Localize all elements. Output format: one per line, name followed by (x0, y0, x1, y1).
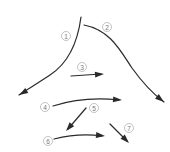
arrow-5: 5 (64, 104, 99, 133)
arrow-number-label: 3 (80, 64, 84, 71)
arrow-7: 7 (110, 124, 134, 146)
arrow-3: 3 (71, 63, 104, 78)
arrow-diagram: 1234567 (0, 0, 170, 152)
arrowhead-icon (113, 96, 122, 103)
arrow-2: 2 (84, 23, 166, 105)
arrow-number-label: 2 (105, 24, 109, 31)
arrowhead-icon (95, 71, 104, 78)
arrow-4: 4 (41, 96, 123, 111)
arrow-number-label: 5 (92, 105, 96, 112)
arrow-number-label: 4 (43, 104, 47, 111)
arrow-number-label: 6 (46, 138, 50, 145)
arrow-line (84, 25, 164, 102)
arrow-1: 1 (18, 17, 82, 98)
arrow-number-label: 1 (64, 33, 68, 40)
arrow-line (53, 99, 119, 106)
arrowhead-icon (96, 132, 106, 139)
arrow-line (19, 17, 81, 95)
arrow-number-label: 7 (127, 125, 131, 132)
arrow-6: 6 (44, 132, 106, 145)
arrow-line (54, 135, 102, 139)
